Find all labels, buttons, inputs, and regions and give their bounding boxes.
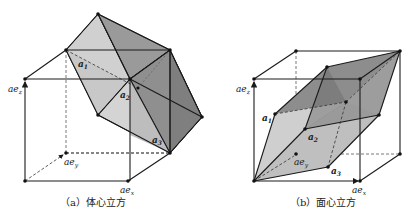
bcc-caption: （a）体心立方 [60, 196, 126, 208]
bcc-label-ex: aex [120, 185, 135, 196]
fcc-caption: （b）面心立方 [290, 196, 356, 208]
crystal-lattice-diagram: aez aey aex a1 a2 a3 （a）体心立方 [0, 0, 411, 215]
bcc-figure: aez aey aex a1 a2 a3 （a）体心立方 [8, 12, 204, 208]
fcc-label-ez: aez [236, 84, 251, 95]
fcc-label-ex: aex [352, 185, 367, 196]
bcc-ey-vector [25, 155, 63, 181]
fcc-label-a1: a1 [262, 113, 272, 124]
fcc-figure: aez aey aex a1 a2 a3 （b）面心立方 [236, 49, 402, 208]
bcc-label-ey: aey [64, 157, 79, 169]
bcc-label-ez: aez [8, 84, 23, 95]
bcc-primitive-cell [66, 14, 202, 153]
fcc-label-a3: a3 [331, 166, 341, 177]
